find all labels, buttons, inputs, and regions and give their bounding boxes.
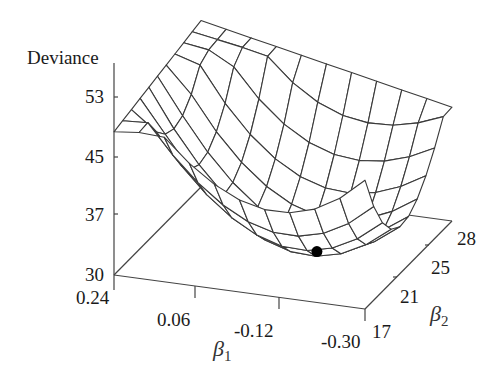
beta2-subscript: 2 <box>441 313 449 329</box>
y-tick-label-25: 25 <box>431 258 450 277</box>
beta1-subscript: 1 <box>224 348 232 364</box>
deviance-surface-mesh <box>114 21 452 257</box>
x-tick-label-024: 0.24 <box>76 288 109 307</box>
z-axis-title: Deviance <box>27 48 99 67</box>
back-left-edge <box>114 187 201 275</box>
z-tick-label-37: 37 <box>85 205 104 224</box>
y-tick-label-21: 21 <box>400 287 419 306</box>
x-axis-title-beta1: β1 <box>213 338 231 364</box>
z-tick-label-45: 45 <box>85 147 104 166</box>
x-tick-label-m012: -0.12 <box>234 321 274 340</box>
x-tick-label-006: 0.06 <box>157 310 190 329</box>
x-tick-label-m030: -0.30 <box>321 332 361 351</box>
z-tick-label-53: 53 <box>85 87 104 106</box>
y-axis-title-beta2: β2 <box>430 303 448 329</box>
minimum-point-marker <box>311 246 322 257</box>
beta2-symbol: β <box>430 301 441 326</box>
x-axis-line <box>114 275 365 309</box>
y-tick-label-28: 28 <box>457 229 476 248</box>
beta1-symbol: β <box>213 336 224 361</box>
z-tick-label-30: 30 <box>85 265 104 284</box>
y-tick-label-17: 17 <box>372 322 391 341</box>
